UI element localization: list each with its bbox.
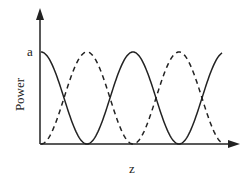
dashed-curve: [41, 52, 222, 144]
y-tick-label: a: [27, 45, 33, 58]
y-axis-label: Power: [13, 70, 26, 120]
chart: a Power z: [0, 0, 250, 186]
solid-curve: [41, 52, 222, 144]
x-axis-arrow-icon: [228, 140, 240, 148]
plot-area: [0, 0, 250, 186]
y-axis-arrow-icon: [36, 8, 44, 20]
x-axis-label: z: [129, 162, 135, 175]
